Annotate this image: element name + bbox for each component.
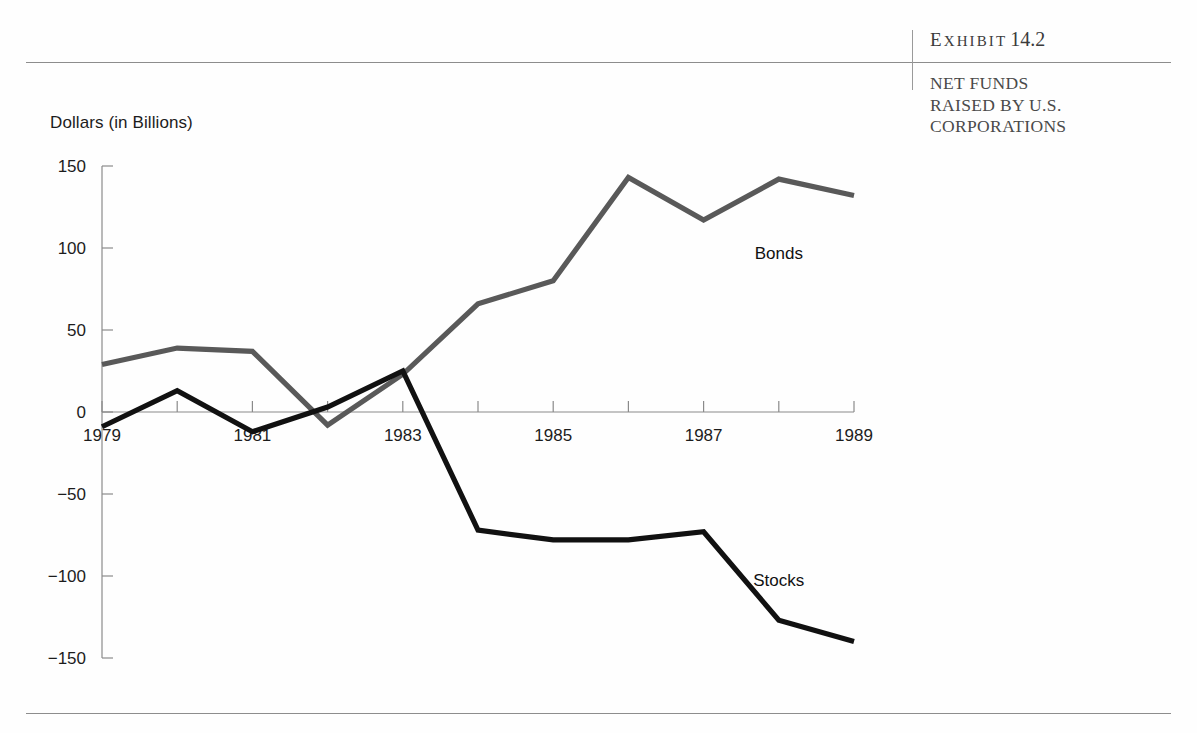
- x-axis-group: 197919811983198519871989: [83, 401, 873, 445]
- y-tick-label: −50: [57, 485, 86, 504]
- chart: Dollars (in Billions) 150100500−50−100−1…: [0, 0, 920, 733]
- exhibit-word-rest: XHIBIT: [944, 33, 1007, 49]
- x-tick-label: 1989: [835, 426, 873, 445]
- x-axis-ticks: 197919811983198519871989: [83, 401, 873, 445]
- series-label-stocks: Stocks: [753, 571, 804, 590]
- y-tick-label: −100: [48, 567, 86, 586]
- exhibit-word: EXHIBIT: [930, 33, 1007, 49]
- x-tick-label: 1979: [83, 426, 121, 445]
- y-tick-label: 50: [67, 321, 86, 340]
- exhibit-page: EXHIBIT14.2 NET FUNDS RAISED BY U.S. COR…: [0, 0, 1197, 733]
- series-line-bonds: [102, 177, 854, 425]
- y-tick-label: 100: [58, 239, 86, 258]
- exhibit-word-initial: E: [930, 29, 944, 50]
- y-tick-label: 0: [77, 403, 86, 422]
- exhibit-subtitle: NET FUNDS RAISED BY U.S. CORPORATIONS: [930, 73, 1066, 138]
- series-label-bonds: Bonds: [755, 244, 803, 263]
- x-tick-label: 1983: [384, 426, 422, 445]
- exhibit-number: 14.2: [1010, 28, 1045, 50]
- y-tick-label: −150: [48, 649, 86, 668]
- x-tick-label: 1987: [685, 426, 723, 445]
- y-tick-label: 150: [58, 157, 86, 176]
- exhibit-title: EXHIBIT14.2: [930, 28, 1045, 51]
- x-tick-label: 1985: [534, 426, 572, 445]
- series-annotations: BondsStocks: [753, 244, 804, 589]
- line-chart-plot: 150100500−50−100−150 1979198119831985198…: [0, 0, 920, 733]
